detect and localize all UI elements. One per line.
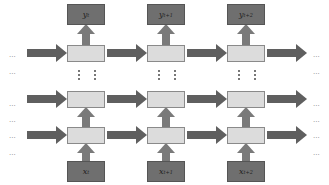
hidden-cell-l2-t1 [147,91,185,108]
hidden-cell-l1-t [67,45,105,62]
left-ellipsis: ··· [9,53,16,61]
vertical-ellipsis [238,69,240,81]
left-ellipsis: ··· [9,151,16,159]
output-superscript: t+1 [164,12,173,18]
output-superscript: t+2 [244,12,253,18]
vertical-ellipsis [254,69,256,81]
output-superscript: t [87,12,89,18]
output-arrows [77,24,255,47]
right-ellipsis: ··· [313,70,320,78]
right-ellipsis: ··· [313,53,320,61]
right-ellipsis: ··· [313,102,320,110]
input-box-t: xt [67,161,105,182]
output-box-t1: yt+1 [147,4,185,25]
output-box-t2: yt+2 [227,4,265,25]
right-ellipsis: ··· [313,118,320,126]
hidden-cell-l3-t2 [227,127,265,144]
input-box-t2: xt+2 [227,161,265,182]
vertical-ellipsis [94,69,96,81]
left-ellipsis: ··· [9,70,16,78]
vertical-ellipsis [174,69,176,81]
input-superscript: t+1 [164,169,173,175]
hidden-cell-l2-t [67,91,105,108]
hidden-cell-l1-t1 [147,45,185,62]
hidden-cell-l3-t [67,127,105,144]
input-superscript: t [87,169,89,175]
output-box-t: yt [67,4,105,25]
left-ellipsis: ··· [9,118,16,126]
vertical-ellipsis [158,69,160,81]
left-ellipsis: ··· [9,102,16,110]
vertical-ellipsis [78,69,80,81]
right-ellipsis: ··· [313,151,320,159]
left-ellipsis: ··· [9,134,16,142]
right-ellipsis: ··· [313,134,320,142]
input-superscript: t+2 [244,169,253,175]
input-box-t1: xt+1 [147,161,185,182]
hidden-cell-l2-t2 [227,91,265,108]
hidden-cell-l3-t1 [147,127,185,144]
hidden-cell-l1-t2 [227,45,265,62]
